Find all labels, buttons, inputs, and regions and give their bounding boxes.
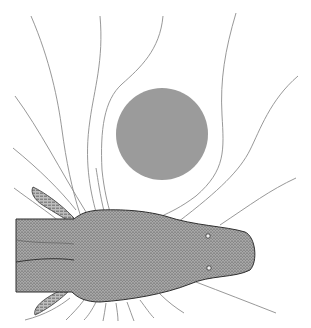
field-diagram bbox=[0, 0, 311, 328]
object-sphere bbox=[116, 88, 208, 180]
illustration: Top-down drawing of a fish head with ele… bbox=[0, 0, 311, 328]
eye-right bbox=[207, 266, 211, 270]
eye-left bbox=[206, 234, 210, 238]
fish bbox=[16, 210, 255, 302]
